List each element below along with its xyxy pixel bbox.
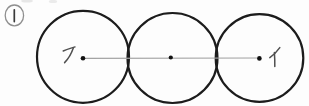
top-edge-artifact [49,0,57,3]
figure-canvas [0,0,309,106]
point-label-right [270,48,280,67]
item-number-badge [5,5,23,26]
top-edge-artifacts [21,0,57,3]
center-dot-middle [169,55,173,59]
geometry-figure [0,0,309,106]
point-label-left [63,47,75,63]
center-dot-left [81,56,86,61]
top-edge-artifact [21,0,33,3]
center-dot-right [257,56,262,61]
